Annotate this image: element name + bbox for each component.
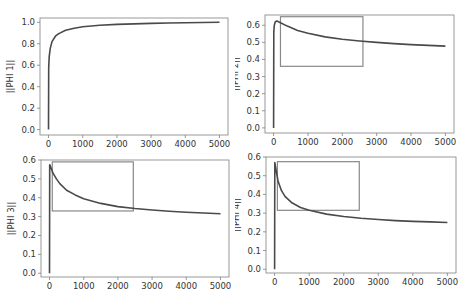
y-tick-label: 0.2: [21, 103, 35, 113]
y-tick-label: 0.4: [247, 189, 261, 199]
x-tick-label: 1000: [298, 277, 320, 287]
x-tick-label: 3000: [141, 281, 163, 291]
zoom-region-box: [277, 162, 359, 211]
x-tick-label: 5000: [210, 281, 232, 291]
y-tick-label: 0.5: [247, 171, 261, 181]
series-line: [274, 21, 446, 128]
axes-frame: [266, 157, 456, 273]
x-tick-label: 2000: [333, 277, 355, 287]
x-tick-label: 5000: [209, 139, 231, 149]
axes-frame: [41, 160, 229, 277]
x-tick-label: 3000: [367, 277, 389, 287]
y-tick-label: 0.3: [247, 208, 261, 218]
x-tick-label: 2000: [107, 281, 129, 291]
y-tick-label: 0.3: [22, 212, 36, 222]
subplot-phi1: 0100020003000400050000.00.20.40.60.81.0|…: [0, 0, 235, 150]
subplot-phi3: 0100020003000400050000.00.10.20.30.40.50…: [0, 150, 235, 299]
y-tick-label: 0.8: [21, 39, 35, 49]
y-tick-label: 0.4: [246, 54, 260, 64]
x-tick-label: 3000: [140, 139, 162, 149]
y-axis-label: ||PHI 2||: [235, 57, 240, 91]
axes-frame: [40, 18, 228, 135]
y-axis-label: ||PHI 1||: [5, 60, 15, 94]
x-tick-label: 2000: [106, 139, 128, 149]
y-tick-label: 0.3: [246, 72, 260, 82]
series-line: [275, 163, 448, 270]
x-tick-label: 4000: [174, 139, 196, 149]
y-tick-label: 0.0: [246, 123, 260, 133]
y-tick-label: 1.0: [21, 17, 35, 27]
y-tick-label: 0.2: [247, 227, 261, 237]
y-tick-label: 0.6: [22, 155, 36, 165]
x-tick-label: 3000: [366, 137, 388, 147]
x-tick-label: 0: [271, 137, 276, 147]
chart-phi2: 0100020003000400050000.00.10.20.30.40.50…: [235, 0, 471, 150]
x-tick-label: 0: [272, 277, 277, 287]
zoom-region-box: [280, 17, 362, 67]
y-tick-label: 0.6: [246, 20, 260, 30]
y-tick-label: 0.0: [247, 264, 261, 274]
x-tick-label: 4000: [400, 137, 422, 147]
y-tick-label: 0.0: [21, 125, 35, 135]
y-axis-label: ||PHI 4||: [235, 198, 241, 232]
y-tick-label: 0.6: [247, 152, 261, 162]
y-tick-label: 0.5: [246, 37, 260, 47]
x-tick-label: 2000: [331, 137, 353, 147]
zoom-region-box: [52, 162, 133, 211]
y-tick-label: 0.2: [246, 89, 260, 99]
chart-phi4: 0100020003000400050000.00.10.20.30.40.50…: [235, 150, 471, 299]
y-tick-label: 0.1: [247, 246, 261, 256]
series-line: [49, 22, 220, 129]
x-tick-label: 5000: [435, 137, 457, 147]
chart-phi1: 0100020003000400050000.00.20.40.60.81.0|…: [0, 0, 235, 150]
x-tick-label: 5000: [437, 277, 459, 287]
y-tick-label: 0.0: [22, 268, 36, 278]
subplot-phi4: 0100020003000400050000.00.10.20.30.40.50…: [235, 150, 471, 299]
x-tick-label: 0: [47, 281, 52, 291]
y-tick-label: 0.5: [22, 174, 36, 184]
y-tick-label: 0.1: [22, 249, 36, 259]
y-tick-label: 0.1: [246, 106, 260, 116]
y-axis-label: ||PHI 3||: [6, 202, 16, 236]
x-tick-label: 1000: [297, 137, 319, 147]
subplot-phi2: 0100020003000400050000.00.10.20.30.40.50…: [235, 0, 471, 150]
x-tick-label: 4000: [402, 277, 424, 287]
y-tick-label: 0.6: [21, 60, 35, 70]
y-tick-label: 0.2: [22, 230, 36, 240]
x-tick-label: 0: [46, 139, 51, 149]
y-tick-label: 0.4: [21, 82, 35, 92]
series-line: [50, 165, 221, 274]
axes-frame: [265, 15, 454, 133]
x-tick-label: 4000: [175, 281, 197, 291]
chart-phi3: 0100020003000400050000.00.10.20.30.40.50…: [0, 150, 235, 299]
x-tick-label: 1000: [72, 139, 94, 149]
x-tick-label: 1000: [73, 281, 95, 291]
y-tick-label: 0.4: [22, 193, 36, 203]
